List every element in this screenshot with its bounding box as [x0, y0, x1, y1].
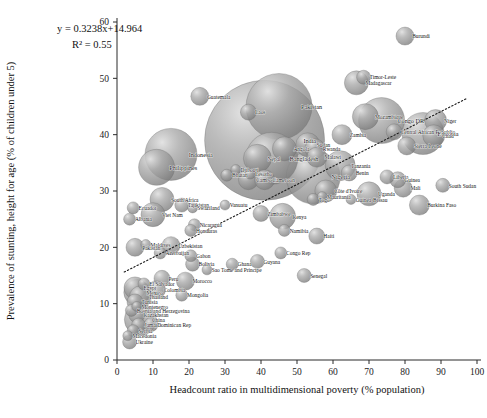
bubble[interactable]	[127, 202, 139, 214]
bubble-label: Albania	[135, 216, 153, 222]
bubble-label: Congo Rep	[286, 250, 311, 256]
x-tick-label: 20	[184, 367, 194, 377]
y-axis-title: Prevalence of stunting, height for age (…	[5, 61, 17, 320]
bubble-label: Honduras	[196, 228, 217, 234]
bubble-label: Senegal	[310, 273, 328, 279]
bubble-label: Namibia	[290, 228, 309, 234]
bubble-label: Kenya	[292, 214, 307, 220]
bubble-label: Guinea-Bissau	[356, 197, 388, 203]
bubble-chart: BurundiTimor-LesteMadagascarGuatemalaPak…	[0, 0, 487, 418]
bubble-label: Macedonia	[133, 333, 158, 339]
bubble-label: Malawi	[325, 154, 342, 160]
x-tick-label: 90	[436, 367, 446, 377]
bubble[interactable]	[275, 247, 287, 259]
bubble-label: Vanuatu	[230, 202, 248, 208]
bubble[interactable]	[380, 170, 394, 184]
y-tick-label: 50	[100, 74, 110, 84]
bubble[interactable]	[436, 178, 450, 192]
bubble-label: Mongolia	[187, 292, 209, 298]
bubble-label: Bhutan	[232, 172, 248, 178]
bubble-label: Congo DR	[397, 117, 425, 124]
bubble-label: Laos	[255, 109, 265, 115]
x-tick-label: 10	[148, 367, 158, 377]
bubble-label: Pakistan	[301, 103, 322, 110]
bubble-label: Gabon	[196, 253, 211, 259]
bubble-label: Cameroon	[272, 177, 295, 183]
bubble[interactable]	[278, 224, 290, 236]
bubble-label: Burundi	[412, 33, 430, 39]
bubble[interactable]	[124, 213, 136, 225]
bubble-label: Guyana	[263, 259, 280, 265]
bubble-label: Zambia	[350, 132, 367, 138]
r-squared-label: R² = 0.55	[72, 39, 112, 50]
bubble[interactable]	[123, 331, 133, 341]
bubble-label: Zimbabwe	[268, 211, 292, 217]
bubble-label: Guinea	[404, 177, 420, 183]
bubble-label: Guatemala	[207, 94, 231, 100]
bubble-label: Burkina Faso	[427, 202, 456, 208]
x-tick-label: 80	[400, 367, 410, 377]
bubble-label: Mali	[410, 185, 421, 191]
bubble-label: Dominican Rep	[157, 322, 191, 328]
bubble-label: Angola	[293, 146, 309, 152]
y-tick-label: 20	[100, 243, 110, 253]
y-tick-label: 10	[100, 299, 110, 309]
bubble-label: Tanzania	[351, 163, 371, 169]
bubble-label: Uzbekistan	[178, 243, 203, 249]
bubble-label: Ukraine	[136, 339, 154, 345]
bubble-label: Bangladesh	[290, 155, 320, 162]
x-tick-label: 50	[292, 367, 302, 377]
bubble-label: Haiti	[323, 233, 334, 239]
y-tick-label: 40	[100, 130, 110, 140]
bubble-label: Azerbaijan	[166, 250, 190, 256]
bubble[interactable]	[297, 269, 311, 283]
chart-canvas: BurundiTimor-LesteMadagascarGuatemalaPak…	[0, 0, 487, 418]
x-tick-label: 0	[115, 367, 120, 377]
bubble-label: Sao Tome and Principe	[212, 267, 263, 273]
bubble-label: South Sudan	[449, 183, 477, 189]
bubble-label: Viet Nam	[162, 212, 184, 218]
bubble-label: Swaziland	[197, 205, 220, 211]
bubble-label: Mauritania	[327, 194, 351, 200]
regression-equation: y = 0.3238x+14.964	[57, 23, 143, 34]
bubble-label: Philippines	[169, 164, 197, 171]
bubble-label: Pakistan	[142, 245, 161, 251]
x-tick-label: 70	[364, 367, 374, 377]
bubble[interactable]	[220, 200, 230, 210]
x-tick-label: 30	[220, 367, 230, 377]
bubble-label: Niger	[444, 118, 456, 124]
bubble-label: Indonesia	[189, 151, 213, 158]
bubble-label: Nepal	[268, 156, 281, 162]
bubble-label: Chad	[442, 133, 454, 139]
bubble-label: Rwanda	[323, 146, 341, 152]
y-tick-label: 30	[100, 186, 110, 196]
bubble-label: Madagascar	[365, 80, 391, 86]
bubble[interactable]	[185, 224, 197, 236]
bubble-label: Morocco	[193, 278, 213, 284]
x-axis-title: Headcount ratio in multidimensional pove…	[170, 384, 425, 396]
y-tick-label: 0	[104, 355, 109, 365]
bubble-label: Sierra Leone	[414, 143, 442, 149]
bubble-label: India	[303, 137, 316, 144]
x-tick-label: 60	[328, 367, 338, 377]
x-tick-label: 100	[470, 367, 485, 377]
bubble-label: Nigeria	[332, 173, 351, 180]
bubble-label: Ecuador	[139, 205, 157, 211]
bubble-label: Benin	[356, 170, 369, 176]
x-tick-label: 40	[256, 367, 266, 377]
bubble-label: Colombia	[164, 287, 186, 293]
